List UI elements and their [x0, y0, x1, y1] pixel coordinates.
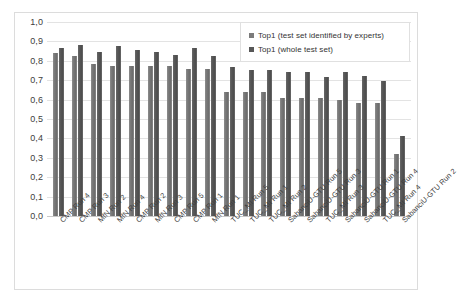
bar — [91, 64, 96, 216]
bar — [211, 56, 216, 216]
bar — [154, 52, 159, 216]
y-axis-tick-label: 1,0 — [30, 17, 43, 27]
bar — [59, 48, 64, 216]
bar — [299, 98, 304, 216]
legend-swatch-icon — [249, 47, 254, 52]
bar — [97, 52, 102, 216]
bar-group — [87, 22, 106, 216]
bar — [148, 66, 153, 216]
y-axis: 0,00,10,20,30,40,50,60,70,80,91,0 — [14, 22, 47, 216]
x-axis: CMP Run 4CMP Run 3MfN Run 2MfN Run 4CMP … — [47, 216, 411, 296]
bar-group — [201, 22, 220, 216]
bar — [116, 46, 121, 216]
y-axis-tick-label: 0,9 — [30, 36, 43, 46]
bar-group — [144, 22, 163, 216]
y-axis-tick-label: 0,6 — [30, 95, 43, 105]
chart-legend: Top1 (test set identified by experts) To… — [240, 22, 410, 62]
bar — [110, 66, 115, 216]
bar — [205, 69, 210, 216]
bar-group — [68, 22, 87, 216]
y-axis-tick-label: 0,5 — [30, 114, 43, 124]
bar — [280, 98, 285, 216]
y-axis-tick-label: 0,8 — [30, 56, 43, 66]
bar — [78, 45, 83, 216]
y-axis-tick-label: 0,2 — [30, 172, 43, 182]
bar — [129, 66, 134, 216]
bar — [173, 55, 178, 216]
bar — [167, 66, 172, 216]
legend-label: Top1 (whole test set) — [258, 45, 333, 54]
bar — [135, 50, 140, 216]
bar — [192, 48, 197, 216]
bar-group — [220, 22, 239, 216]
legend-item-series-a: Top1 (test set identified by experts) — [249, 31, 403, 40]
bar — [243, 92, 248, 216]
y-axis-tick-label: 0,1 — [30, 192, 43, 202]
bar-group — [163, 22, 182, 216]
bar-group — [182, 22, 201, 216]
bar-group — [49, 22, 68, 216]
y-axis-tick-label: 0,3 — [30, 153, 43, 163]
bar-group — [106, 22, 125, 216]
y-axis-tick-label: 0,7 — [30, 75, 43, 85]
bar — [318, 98, 323, 216]
legend-label: Top1 (test set identified by experts) — [258, 31, 384, 40]
legend-item-series-b: Top1 (whole test set) — [249, 45, 403, 54]
y-axis-tick-label: 0,0 — [30, 211, 43, 221]
bar — [72, 56, 77, 216]
y-axis-tick-label: 0,4 — [30, 133, 43, 143]
bar — [53, 53, 58, 216]
legend-swatch-icon — [249, 33, 254, 38]
bar-group — [125, 22, 144, 216]
bar — [186, 69, 191, 216]
